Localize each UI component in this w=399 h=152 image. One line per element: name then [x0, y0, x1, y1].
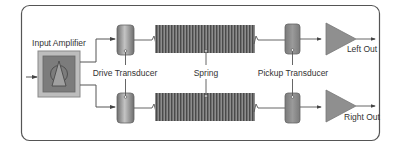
spring-label: Spring [194, 68, 219, 78]
drive-transducer-label: Drive Transducer [93, 68, 158, 78]
right-out-label: Right Out [344, 112, 381, 122]
pickup-transducer-label: Pickup Transducer [258, 68, 329, 78]
input-amplifier-label: Input Amplifier [32, 38, 86, 48]
left-out-label: Left Out [347, 44, 378, 54]
spring-top [155, 25, 255, 53]
input-amplifier [38, 51, 80, 97]
